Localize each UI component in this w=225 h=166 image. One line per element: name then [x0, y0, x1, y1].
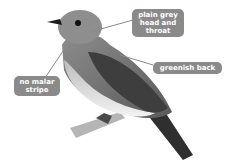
bird-beak	[47, 19, 62, 25]
bird-eye	[75, 20, 81, 26]
bird-tail	[150, 112, 193, 160]
callout-greenish-back: greenish back	[153, 62, 222, 74]
callout-no-malar-stripe: no malar stripe	[14, 76, 60, 96]
callout-head-throat: plain grey head and throat	[132, 9, 184, 37]
bird-illustration-figure: plain grey head and throat greenish back…	[0, 0, 225, 166]
leader-line-malar	[45, 48, 65, 78]
branch	[70, 112, 125, 138]
bird-head	[58, 10, 102, 44]
